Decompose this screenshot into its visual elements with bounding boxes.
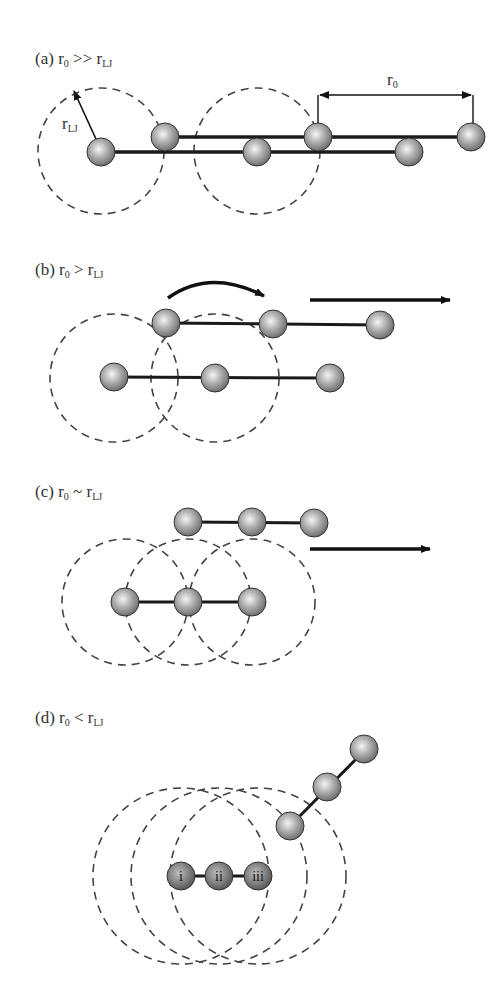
panel-d-atoms <box>167 735 378 890</box>
atom-sphere <box>259 310 287 338</box>
rotation-arrow <box>168 282 264 298</box>
atom-sphere <box>174 588 202 616</box>
atom-sphere <box>313 773 341 801</box>
lj-chain-diagram: (a) r0 >> rLJ (b) r0 > rLJ (c) r0 ~ rLJ … <box>0 0 502 996</box>
atom-sphere <box>100 363 128 391</box>
panel-a-atoms <box>87 123 485 166</box>
atom-sphere <box>366 311 394 339</box>
atom-sphere <box>152 309 180 337</box>
panel-b-atoms <box>100 309 394 392</box>
panel-c-bonds <box>125 522 314 602</box>
atom-sphere <box>111 588 139 616</box>
atom-label-i: i <box>179 869 183 884</box>
atom-sphere <box>243 138 271 166</box>
atom-sphere <box>395 138 423 166</box>
atom-sphere <box>300 509 328 537</box>
atom-sphere <box>238 508 266 536</box>
atom-label-ii: ii <box>215 869 223 884</box>
atom-sphere <box>457 123 485 151</box>
atom-sphere <box>276 812 304 840</box>
atom-sphere <box>238 588 266 616</box>
atom-sphere <box>87 138 115 166</box>
atom-sphere <box>316 364 344 392</box>
panel-d-bonds <box>181 749 366 876</box>
atom-sphere <box>350 735 378 763</box>
atom-sphere <box>201 364 229 392</box>
atom-sphere <box>304 123 332 151</box>
distance-indicator <box>318 95 473 124</box>
atom-sphere <box>174 508 202 536</box>
diagram-canvas: i ii iii <box>0 0 502 996</box>
atom-sphere <box>151 123 179 151</box>
atom-label-iii: iii <box>252 869 264 884</box>
